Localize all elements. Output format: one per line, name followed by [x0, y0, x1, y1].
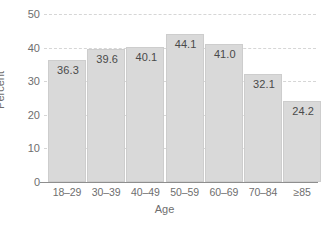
- y-tick-label-50: 50: [14, 8, 40, 20]
- bar-60-69[interactable]: 41.0: [205, 44, 243, 182]
- bar-value-70-84: 32.1: [245, 78, 283, 90]
- bar-value-40-49: 40.1: [127, 51, 165, 63]
- bar-85-plus[interactable]: 24.2: [283, 101, 321, 182]
- y-tick-label-40: 40: [14, 42, 40, 54]
- bar-value-18-29: 36.3: [49, 64, 87, 76]
- x-tick-label-85-plus: ≥85: [279, 186, 325, 198]
- x-axis-line: [40, 182, 318, 183]
- plot-area: 36.3 39.6 40.1 44.1 41.0 32.1 24.2: [44, 14, 316, 182]
- gridline-50: [44, 14, 316, 15]
- y-tick-label-10: 10: [14, 142, 40, 154]
- y-tick-label-20: 20: [14, 109, 40, 121]
- bar-50-59[interactable]: 44.1: [166, 34, 204, 182]
- y-tick-label-30: 30: [14, 75, 40, 87]
- bar-40-49[interactable]: 40.1: [126, 47, 164, 182]
- bar-chart: 0 10 20 30 40 50 Percent 36.3 39.6 40.1 …: [0, 0, 329, 228]
- y-tick-label-0: 0: [14, 176, 40, 188]
- x-axis-title: Age: [0, 203, 329, 215]
- bar-value-30-39: 39.6: [88, 53, 126, 65]
- bar-18-29[interactable]: 36.3: [48, 60, 86, 182]
- bar-value-50-59: 44.1: [167, 38, 205, 50]
- bar-value-60-69: 41.0: [206, 48, 244, 60]
- bar-value-85-plus: 24.2: [284, 105, 322, 117]
- bar-70-84[interactable]: 32.1: [244, 74, 282, 182]
- bar-30-39[interactable]: 39.6: [87, 49, 125, 182]
- y-axis-title: Percent: [0, 71, 6, 109]
